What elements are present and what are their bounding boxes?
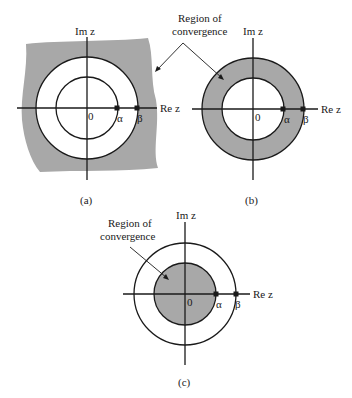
origin-label-b: 0 bbox=[255, 111, 261, 123]
beta-label-c: β bbox=[235, 298, 241, 310]
panel-b: Im z Re z 0 α β (b) bbox=[192, 25, 341, 207]
pole-beta-c bbox=[234, 292, 239, 297]
annotation-c-line1: Region of bbox=[108, 217, 152, 229]
pole-beta-b bbox=[301, 107, 306, 112]
origin-label-a: 0 bbox=[88, 110, 94, 122]
alpha-label-c: α bbox=[216, 298, 222, 310]
roc-annotation-top: Region of convergence bbox=[155, 12, 227, 80]
origin-label-c: 0 bbox=[187, 296, 193, 308]
pole-alpha-c bbox=[214, 292, 219, 297]
re-label-c: Re z bbox=[253, 288, 273, 300]
panel-c: Im z Re z 0 α β (c) Region of convergenc… bbox=[100, 209, 273, 389]
annotation-line1: Region of bbox=[178, 12, 222, 24]
caption-b: (b) bbox=[245, 194, 258, 207]
pointer-to-b bbox=[183, 43, 222, 78]
re-label-b: Re z bbox=[321, 103, 341, 115]
re-label-a: Re z bbox=[160, 102, 180, 114]
caption-a: (a) bbox=[80, 194, 93, 207]
beta-label-a: β bbox=[137, 112, 143, 124]
annotation-c-line2: convergence bbox=[100, 230, 155, 242]
pointer-to-a bbox=[157, 43, 183, 70]
panel-a: Im z Re z 0 α β (a) bbox=[17, 25, 180, 207]
alpha-label-b: α bbox=[284, 113, 290, 125]
pointer-to-c bbox=[130, 247, 167, 278]
im-label-a: Im z bbox=[75, 25, 95, 37]
annotation-line2: convergence bbox=[172, 25, 227, 37]
im-label-b: Im z bbox=[243, 25, 263, 37]
im-label-c: Im z bbox=[176, 209, 196, 221]
pole-beta-a bbox=[135, 106, 140, 111]
pole-alpha-a bbox=[115, 106, 120, 111]
roc-diagram: Im z Re z 0 α β (a) Im z Re z 0 α β (b) … bbox=[0, 0, 352, 398]
beta-label-b: β bbox=[303, 113, 309, 125]
caption-c: (c) bbox=[178, 376, 191, 389]
alpha-label-a: α bbox=[117, 112, 123, 124]
pole-alpha-b bbox=[281, 107, 286, 112]
